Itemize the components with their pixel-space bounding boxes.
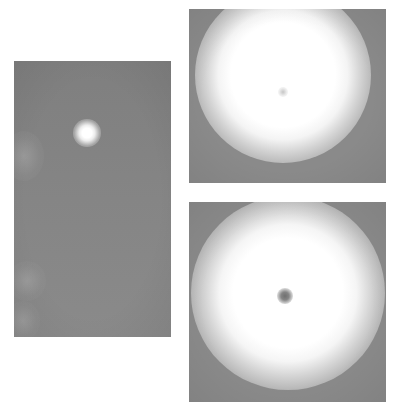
cloud-wisp-bottom xyxy=(14,301,40,337)
photo-panel-sun-closeup-bottom xyxy=(189,202,386,402)
photo-panel-sun-closeup-top xyxy=(189,9,386,183)
sun-center-spot-faint xyxy=(278,87,288,97)
sun-center-spot-dark xyxy=(277,288,293,304)
cloud-wisp-upper xyxy=(14,131,44,181)
sun-disc-bright xyxy=(195,9,371,163)
sun-small xyxy=(73,119,101,147)
photo-panel-wide-sky xyxy=(14,61,171,337)
cloud-wisp-lower xyxy=(14,261,46,301)
